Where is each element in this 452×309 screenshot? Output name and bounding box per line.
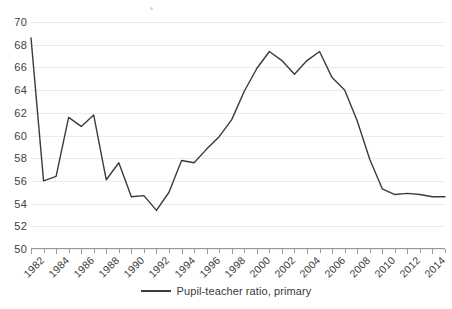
- x-axis-tick-label: 1984: [46, 254, 72, 280]
- y-axis-tick-label: 60: [14, 130, 27, 142]
- x-axis-tick: [169, 249, 170, 253]
- legend-item-label: Pupil-teacher ratio, primary: [177, 285, 312, 297]
- x-axis-tick-label: 1994: [171, 254, 197, 280]
- chart-legend: Pupil-teacher ratio, primary: [0, 285, 452, 297]
- x-axis-tick-label: 1986: [71, 254, 97, 280]
- x-axis-tick-label: 1992: [146, 254, 172, 280]
- y-axis-tick-label: 64: [14, 84, 27, 96]
- x-axis-tick: [420, 249, 421, 253]
- x-axis-tick: [44, 249, 45, 253]
- x-axis-tick: [269, 249, 270, 253]
- x-axis-tick-labels: 1982198419861988199019921994199619982000…: [31, 254, 445, 286]
- x-axis-tick: [94, 249, 95, 253]
- x-axis-tick: [345, 249, 346, 253]
- series-line-pupil-teacher-ratio-primary: [31, 38, 445, 211]
- y-axis-tick-label: 58: [14, 152, 27, 164]
- x-axis-tick-label: 2006: [322, 254, 348, 280]
- x-axis-tick-label: 2008: [347, 254, 373, 280]
- x-axis-tick-label: 2004: [297, 254, 323, 280]
- x-axis-tick: [219, 249, 220, 253]
- x-axis-tick: [370, 249, 371, 253]
- x-axis-tick-label: 2002: [272, 254, 298, 280]
- x-axis-tick: [194, 249, 195, 253]
- line-series-svg: [31, 22, 445, 249]
- y-axis-tick-label: 50: [14, 243, 27, 255]
- image-artifact-speck: [150, 7, 153, 10]
- plot-area: [31, 22, 445, 249]
- y-axis-tick-label: 54: [14, 198, 27, 210]
- x-axis-tick: [445, 249, 446, 253]
- x-axis-tick: [320, 249, 321, 253]
- x-axis-tick: [144, 249, 145, 253]
- y-axis-tick-label: 62: [14, 107, 27, 119]
- x-axis-tick: [294, 249, 295, 253]
- x-axis-tick: [69, 249, 70, 253]
- x-axis-tick-label: 1996: [197, 254, 223, 280]
- x-axis-tick-label: 1988: [96, 254, 122, 280]
- x-axis-tick-label: 1990: [121, 254, 147, 280]
- y-axis-tick-labels: 5052545658606264666870: [0, 22, 27, 249]
- x-axis-tick: [395, 249, 396, 253]
- y-axis-tick-label: 52: [14, 220, 27, 232]
- y-axis-tick-label: 66: [14, 61, 27, 73]
- x-axis-tick: [119, 249, 120, 253]
- x-axis-tick-label: 2010: [372, 254, 398, 280]
- legend-line-swatch: [141, 290, 171, 292]
- x-axis-tick-label: 1982: [21, 254, 47, 280]
- y-axis-tick-label: 56: [14, 175, 27, 187]
- y-axis-tick-label: 68: [14, 39, 27, 51]
- x-axis-tick: [244, 249, 245, 253]
- x-axis-tick-label: 2014: [422, 254, 448, 280]
- x-axis-tick-label: 2000: [247, 254, 273, 280]
- chart-container: 5052545658606264666870 19821984198619881…: [0, 0, 452, 309]
- y-axis-tick-label: 70: [14, 16, 27, 28]
- x-axis-tick-label: 1998: [222, 254, 248, 280]
- x-axis-tick-label: 2012: [397, 254, 423, 280]
